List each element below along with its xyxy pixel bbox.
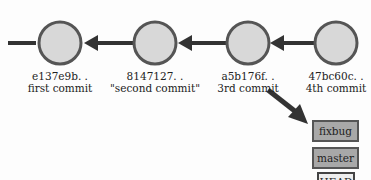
parent-arrow-3-to-2 bbox=[178, 35, 226, 51]
commit-label-2: 8147127. . "second commit" bbox=[110, 70, 200, 94]
commit-message: 4th commit bbox=[306, 82, 367, 94]
commit-hash: a5b176f. . bbox=[217, 70, 278, 82]
commit-hash: e137e9b. . bbox=[28, 70, 93, 82]
branch-pointer-arrow bbox=[268, 90, 308, 124]
commit-label-4: 47bc60c. . 4th commit bbox=[306, 70, 367, 94]
commit-message: "second commit" bbox=[110, 82, 200, 94]
commit-hash: 47bc60c. . bbox=[306, 70, 367, 82]
parent-arrow-4-to-3 bbox=[270, 35, 314, 51]
commit-label-1: e137e9b. . first commit bbox=[28, 70, 93, 94]
commit-node-2[interactable] bbox=[134, 22, 176, 64]
commit-label-3: a5b176f. . 3rd commit bbox=[217, 70, 278, 94]
branch-fixbug[interactable]: fixbug bbox=[312, 120, 359, 142]
commit-message: 3rd commit bbox=[217, 82, 278, 94]
commit-node-1[interactable] bbox=[39, 22, 81, 64]
commit-node-4[interactable] bbox=[315, 22, 357, 64]
head-pointer[interactable]: HEAD bbox=[317, 172, 355, 180]
branch-master[interactable]: master bbox=[312, 147, 359, 169]
commit-node-3[interactable] bbox=[227, 22, 269, 64]
parent-arrow-2-to-1 bbox=[84, 35, 133, 51]
commit-message: first commit bbox=[28, 82, 93, 94]
git-commit-diagram: e137e9b. . first commit 8147127. . "seco… bbox=[0, 0, 371, 180]
commit-hash: 8147127. . bbox=[110, 70, 200, 82]
